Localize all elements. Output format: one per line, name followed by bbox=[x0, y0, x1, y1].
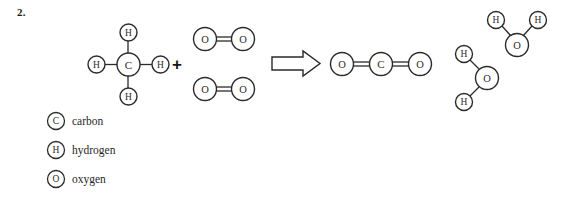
hydrogen-atom-icon-label: H bbox=[53, 145, 60, 155]
bond-o-h-upper bbox=[470, 60, 479, 69]
atom-label-hydrogen-left: H bbox=[93, 60, 100, 70]
atom-carbon: C bbox=[117, 53, 140, 76]
oxygen-atom-icon: O bbox=[46, 169, 68, 189]
atom-oxygen: O bbox=[506, 34, 529, 57]
atom-label-hydrogen-right: H bbox=[535, 15, 542, 25]
legend-label-hydrogen: hydrogen bbox=[72, 142, 115, 158]
reaction-arrow-icon bbox=[272, 51, 320, 76]
atom-oxygen-left: O bbox=[194, 28, 217, 51]
legend-label-carbon: carbon bbox=[72, 113, 103, 129]
atom-label-oxygen-left: O bbox=[201, 84, 209, 95]
atom-label-oxygen-right: O bbox=[416, 59, 424, 70]
oxygen-atom-icon-label: O bbox=[53, 174, 60, 184]
atom-label-oxygen-right: O bbox=[239, 34, 247, 45]
molecule-water-2: O H H bbox=[456, 46, 499, 111]
atom-label-hydrogen-lower: H bbox=[461, 97, 468, 107]
atom-label-carbon-center: C bbox=[377, 58, 384, 70]
atom-label-carbon: C bbox=[125, 59, 132, 71]
atom-label-hydrogen-upper: H bbox=[461, 49, 468, 59]
legend-label-oxygen: oxygen bbox=[72, 171, 106, 187]
atom-hydrogen-right: H bbox=[530, 12, 547, 29]
atom-hydrogen-bottom: H bbox=[120, 88, 137, 105]
reaction-equation-diagram: C H H H H bbox=[0, 0, 563, 197]
molecule-methane: C H H H H bbox=[88, 24, 169, 105]
atom-oxygen-right: O bbox=[232, 28, 255, 51]
atom-hydrogen-upper: H bbox=[456, 46, 473, 63]
atom-label-hydrogen-right: H bbox=[157, 60, 164, 70]
atom-hydrogen-top: H bbox=[120, 24, 137, 41]
bond-o-h-left bbox=[502, 26, 511, 36]
atom-carbon-center: C bbox=[370, 53, 393, 76]
atom-hydrogen-lower: H bbox=[456, 94, 473, 111]
atom-label-oxygen-left: O bbox=[338, 59, 346, 70]
atom-label-oxygen-right: O bbox=[239, 84, 247, 95]
molecule-water-1: O H H bbox=[488, 12, 547, 57]
atom-oxygen-right: O bbox=[409, 53, 432, 76]
bond-o-h-lower bbox=[470, 87, 479, 96]
molecule-oxygen-2: O O bbox=[194, 78, 255, 101]
bond-o-h-right bbox=[523, 26, 532, 36]
atom-oxygen-right: O bbox=[232, 78, 255, 101]
atom-label-oxygen: O bbox=[483, 73, 491, 84]
carbon-atom-icon: C bbox=[46, 111, 68, 131]
hydrogen-atom-icon: H bbox=[46, 140, 68, 160]
atom-hydrogen-left: H bbox=[88, 56, 105, 73]
atom-label-hydrogen-bottom: H bbox=[125, 92, 132, 102]
carbon-atom-icon-label: C bbox=[53, 116, 59, 126]
molecule-oxygen-1: O O bbox=[194, 28, 255, 51]
plus-sign: + bbox=[172, 56, 182, 73]
atom-hydrogen-right: H bbox=[152, 56, 169, 73]
atom-hydrogen-left: H bbox=[488, 12, 505, 29]
atom-oxygen-left: O bbox=[194, 78, 217, 101]
atom-label-oxygen-left: O bbox=[201, 34, 209, 45]
atom-label-hydrogen-top: H bbox=[125, 28, 132, 38]
molecule-carbon-dioxide: O C O bbox=[331, 53, 432, 76]
atom-label-hydrogen-left: H bbox=[493, 15, 500, 25]
atom-oxygen-left: O bbox=[331, 53, 354, 76]
atom-label-oxygen: O bbox=[513, 40, 521, 51]
atom-oxygen: O bbox=[476, 67, 499, 90]
worksheet-figure: 2. C H H H bbox=[0, 0, 563, 197]
